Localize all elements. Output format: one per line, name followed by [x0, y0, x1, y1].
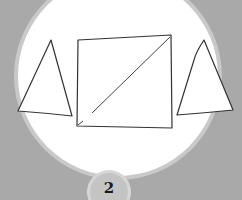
step-number-badge: 2	[89, 178, 129, 198]
illustration-canvas	[0, 0, 242, 200]
